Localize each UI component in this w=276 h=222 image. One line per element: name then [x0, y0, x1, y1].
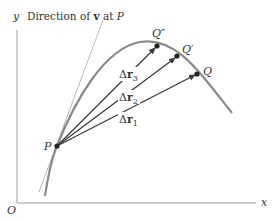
origin-label: O	[7, 204, 16, 217]
displacement-diagram: P Q Q′ Q″ Δr1 Δr2 Δr3 Direction of v at …	[0, 0, 276, 222]
tangent-caption: Direction of v at P	[27, 10, 125, 22]
point-q-dot	[194, 71, 199, 76]
delta-r1-vector	[57, 75, 195, 146]
delta-r2-vector	[57, 58, 175, 146]
point-q-double-prime-label: Q″	[152, 27, 166, 40]
point-p-dot	[54, 143, 59, 148]
y-axis-label: y	[12, 10, 20, 23]
point-p-label: P	[43, 140, 52, 153]
point-q-prime-label: Q′	[182, 43, 194, 56]
x-axis-label: x	[261, 196, 268, 209]
point-q-prime-dot	[174, 53, 179, 58]
point-q-label: Q	[203, 65, 212, 78]
tangent-line	[39, 20, 103, 192]
point-q-double-prime-dot	[154, 43, 159, 48]
